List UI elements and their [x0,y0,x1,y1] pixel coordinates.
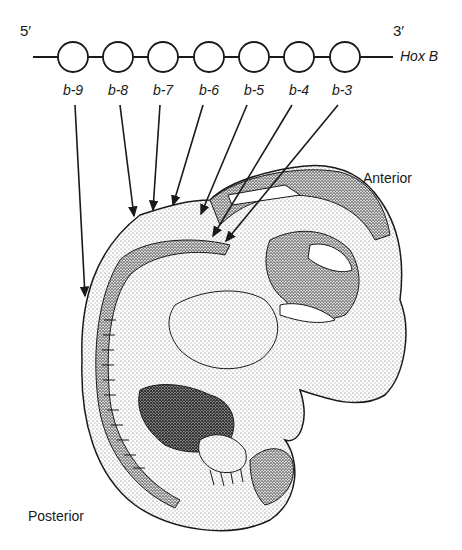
gene-b9-circle [58,42,88,72]
gene-b4-circle [284,42,314,72]
five-prime-label: 5′ [20,22,31,39]
gene-b8-circle [103,42,133,72]
arrow-b9 [75,105,85,296]
anterior-label: Anterior [363,170,412,186]
posterior-label: Posterior [28,508,84,524]
three-prime-label: 3′ [393,22,404,39]
gene-label-b8: b-8 [98,82,138,98]
gene-b7-circle [148,42,178,72]
arrow-b8 [120,105,134,216]
gene-b6-circle [194,42,224,72]
gene-b3-circle [330,42,360,72]
gene-label-b5: b-5 [234,82,274,98]
gene-b5-circle [239,42,269,72]
hox-b-label: Hox B [400,48,438,64]
arrow-b6 [173,105,203,205]
gene-label-b3: b-3 [322,82,362,98]
gene-label-b4: b-4 [279,82,319,98]
gene-label-b9: b-9 [53,82,93,98]
gene-label-b6: b-6 [189,82,229,98]
gene-label-b7: b-7 [143,82,183,98]
arrow-b7 [153,105,160,210]
hox-strand [33,42,393,72]
